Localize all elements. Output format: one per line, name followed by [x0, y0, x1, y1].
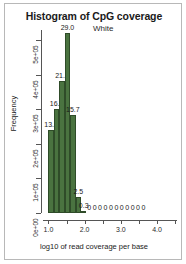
- x-axis-tick: [157, 220, 158, 224]
- y-axis-tick-label: 2e+05: [32, 143, 39, 173]
- x-axis-tick: [85, 220, 86, 224]
- bar-value-label: 0: [93, 204, 97, 211]
- x-axis-minor-tick: [103, 220, 104, 224]
- x-axis-tick-label: 4.0: [152, 226, 162, 233]
- y-axis-tick-label: 0e+00: [32, 213, 39, 243]
- x-axis-minor-tick: [67, 220, 68, 224]
- x-axis-tick-label: 1.0: [44, 226, 54, 233]
- bar-value-label: 0: [104, 204, 108, 211]
- plot-area: 13.316.721.329.015.72.50.300000000000: [43, 30, 177, 213]
- x-axis-tick: [48, 220, 49, 224]
- bar-value-label: 0: [136, 204, 140, 211]
- bar-value-label: 2.5: [73, 188, 83, 195]
- page-title: Histogram of CpG coverage: [5, 10, 183, 22]
- chart-card: Histogram of CpG coverage White 13.316.7…: [4, 3, 182, 260]
- bar-value-label: 0: [98, 204, 102, 211]
- bar-value-label: 15.7: [66, 106, 80, 113]
- x-axis-minor-tick: [175, 220, 176, 224]
- bar-value-label: 29.0: [61, 24, 75, 31]
- screenshot-root: Histogram of CpG coverage White 13.316.7…: [0, 0, 186, 264]
- x-axis-title: log10 of read coverage per base: [5, 242, 183, 251]
- y-axis-tick-label: 4e+05: [32, 74, 39, 104]
- bar-value-label: 0: [109, 204, 113, 211]
- bar-value-label: 0: [131, 204, 135, 211]
- bar-value-label: 0: [125, 204, 129, 211]
- y-axis-title: Frequency: [9, 79, 18, 149]
- bar-value-label: 0: [87, 204, 91, 211]
- x-axis-minor-tick: [139, 220, 140, 224]
- histogram-bar: [81, 211, 86, 213]
- bars-container: 13.316.721.329.015.72.50.300000000000: [43, 30, 177, 213]
- bar-value-label: 0: [142, 204, 146, 211]
- y-axis-line: [41, 30, 42, 213]
- x-axis-tick-label: 3.0: [116, 226, 126, 233]
- x-axis-tick-label: 2.0: [80, 226, 90, 233]
- y-axis-tick-label: 1e+05: [32, 178, 39, 208]
- bar-value-label: 0: [114, 204, 118, 211]
- bar-value-label: 0: [120, 204, 124, 211]
- y-axis-tick-label: 3e+05: [32, 109, 39, 139]
- x-axis-tick: [121, 220, 122, 224]
- y-axis-tick-label: 5e+05: [32, 40, 39, 70]
